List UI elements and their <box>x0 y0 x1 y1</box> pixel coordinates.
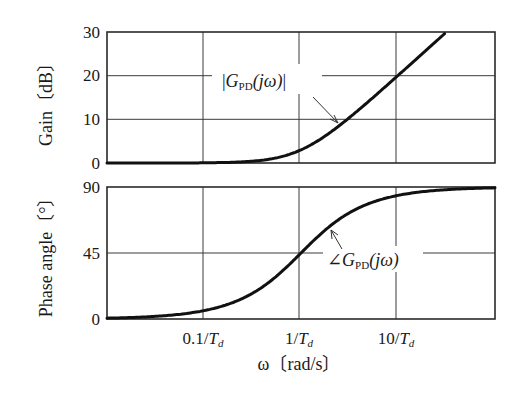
x-axis: 0.1/Td 1/Td 10/Td ω〔rad/s〕 <box>183 329 415 374</box>
bode-plot: |GPD(jω)| 30 20 10 0 Gain〔dB〕 ∠GPD(jω) 9… <box>0 0 519 398</box>
phase-panel: ∠GPD(jω) 90 45 0 Phase angle〔°〕 <box>36 178 495 329</box>
arrowhead-icon <box>331 230 338 239</box>
x-tick-1: 1/Td <box>285 329 314 349</box>
gain-panel: |GPD(jω)| 30 20 10 0 Gain〔dB〕 <box>36 23 495 173</box>
phase-y-axis-label: Phase angle〔°〕 <box>36 189 56 318</box>
x-tick-10: 10/Td <box>378 329 415 349</box>
phase-tick-90: 90 <box>83 178 100 197</box>
phase-tick-45: 45 <box>83 244 100 263</box>
gain-tick-20: 20 <box>83 66 100 85</box>
phase-tick-0: 0 <box>92 310 101 329</box>
gain-annotation: |GPD(jω)| <box>222 71 286 92</box>
gain-curve <box>107 34 445 163</box>
gain-tick-10: 10 <box>83 110 100 129</box>
x-axis-label: ω〔rad/s〕 <box>258 354 341 374</box>
x-tick-0.1: 0.1/Td <box>183 329 224 349</box>
gain-gridlines <box>107 32 495 163</box>
gain-y-axis-label: Gain〔dB〕 <box>36 54 56 146</box>
gain-plot-frame <box>107 32 495 163</box>
gain-tick-30: 30 <box>83 23 100 42</box>
gain-tick-0: 0 <box>92 154 101 173</box>
